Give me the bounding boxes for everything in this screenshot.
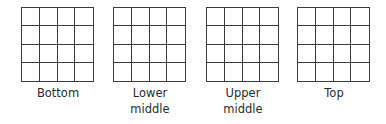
grid-cell bbox=[260, 45, 278, 63]
grid-cell bbox=[243, 8, 261, 26]
grid-cell bbox=[150, 8, 168, 26]
grid-cell bbox=[334, 45, 352, 63]
grid-cell bbox=[150, 26, 168, 44]
grid-cell bbox=[58, 26, 76, 44]
grid-cell bbox=[22, 26, 40, 44]
grid-panel-bottom bbox=[21, 7, 95, 82]
grid-cell bbox=[243, 26, 261, 44]
grid-cell bbox=[225, 8, 243, 26]
grid-cell bbox=[75, 63, 93, 81]
label-line: Top bbox=[297, 85, 371, 101]
grid-4x4 bbox=[297, 7, 370, 82]
grid-cell bbox=[298, 8, 316, 26]
grid-cell bbox=[260, 26, 278, 44]
grid-cell bbox=[150, 45, 168, 63]
grid-cell bbox=[132, 26, 150, 44]
label-line: middle bbox=[206, 101, 280, 117]
grid-cell bbox=[40, 63, 58, 81]
grid-cell bbox=[334, 26, 352, 44]
grid-4x4 bbox=[21, 7, 94, 82]
grid-cell bbox=[225, 45, 243, 63]
grid-cell bbox=[225, 26, 243, 44]
grid-cell bbox=[351, 45, 369, 63]
grid-cell bbox=[75, 26, 93, 44]
grid-cell bbox=[260, 8, 278, 26]
panel-label-bottom: Bottom bbox=[21, 85, 95, 101]
grid-4x4 bbox=[206, 7, 279, 82]
grid-cell bbox=[132, 63, 150, 81]
grid-cell bbox=[316, 63, 334, 81]
grid-cell bbox=[132, 8, 150, 26]
grid-cell bbox=[75, 8, 93, 26]
grid-cell bbox=[22, 63, 40, 81]
grid-cell bbox=[316, 45, 334, 63]
grid-cell bbox=[150, 63, 168, 81]
grid-cell bbox=[298, 45, 316, 63]
label-line: Bottom bbox=[21, 85, 95, 101]
grid-cell bbox=[316, 8, 334, 26]
grid-cell bbox=[167, 26, 185, 44]
grid-cell bbox=[132, 45, 150, 63]
grid-cell bbox=[167, 63, 185, 81]
grid-cell bbox=[40, 45, 58, 63]
grid-cell bbox=[243, 63, 261, 81]
grid-cell bbox=[40, 8, 58, 26]
grid-cell bbox=[58, 8, 76, 26]
grid-cell bbox=[207, 45, 225, 63]
grid-cell bbox=[75, 45, 93, 63]
grid-cell bbox=[22, 8, 40, 26]
grid-cell bbox=[207, 26, 225, 44]
label-line: Lower bbox=[113, 85, 187, 101]
grid-cell bbox=[351, 8, 369, 26]
grid-cell bbox=[351, 63, 369, 81]
panel-label-top: Top bbox=[297, 85, 371, 101]
grid-cell bbox=[114, 45, 132, 63]
panel-label-upper-middle: Upper middle bbox=[206, 85, 280, 117]
grid-panel-top bbox=[297, 7, 371, 82]
label-line: Upper bbox=[206, 85, 280, 101]
grid-cell bbox=[351, 26, 369, 44]
grid-panel-upper-middle bbox=[206, 7, 280, 82]
grid-cell bbox=[22, 45, 40, 63]
grid-cell bbox=[334, 63, 352, 81]
grid-cell bbox=[114, 26, 132, 44]
grid-cell bbox=[167, 45, 185, 63]
grid-cell bbox=[243, 45, 261, 63]
grid-cell bbox=[40, 26, 58, 44]
panel-label-lower-middle: Lower middle bbox=[113, 85, 187, 117]
grid-cell bbox=[298, 63, 316, 81]
grid-cell bbox=[114, 63, 132, 81]
grid-cell bbox=[58, 45, 76, 63]
grid-cell bbox=[167, 8, 185, 26]
label-line: middle bbox=[113, 101, 187, 117]
grid-cell bbox=[260, 63, 278, 81]
grid-cell bbox=[114, 8, 132, 26]
grid-panel-lower-middle bbox=[113, 7, 187, 82]
grid-4x4 bbox=[113, 7, 186, 82]
grid-cell bbox=[334, 8, 352, 26]
grid-cell bbox=[207, 63, 225, 81]
grid-cell bbox=[316, 26, 334, 44]
grid-cell bbox=[207, 8, 225, 26]
grid-cell bbox=[58, 63, 76, 81]
grid-cell bbox=[298, 26, 316, 44]
grid-cell bbox=[225, 63, 243, 81]
